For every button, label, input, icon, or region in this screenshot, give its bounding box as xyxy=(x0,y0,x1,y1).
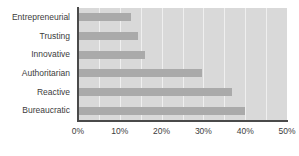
bar xyxy=(78,69,202,77)
bar xyxy=(78,88,232,96)
bar-chart: Entrepreneurial Trusting Innovative Auth… xyxy=(0,0,299,156)
category-label-reactive: Reactive xyxy=(0,88,70,97)
x-axis-line xyxy=(77,120,288,122)
category-label-trusting: Trusting xyxy=(0,32,70,41)
bar xyxy=(78,13,131,21)
x-tick-label-10: 10% xyxy=(100,126,140,137)
x-axis-tick-labels: 0% 10% 20% 30% 40% 50% xyxy=(0,126,299,142)
category-axis-labels: Entrepreneurial Trusting Innovative Auth… xyxy=(0,8,74,120)
bar xyxy=(78,32,138,40)
x-tick-label-40: 40% xyxy=(225,126,265,137)
x-tick-label-0: 0% xyxy=(58,126,98,137)
gridline xyxy=(203,8,204,120)
gridline xyxy=(245,8,246,120)
gridline xyxy=(99,8,100,120)
x-tick-label-20: 20% xyxy=(142,126,182,137)
x-tick-label-30: 30% xyxy=(183,126,223,137)
gridline xyxy=(141,8,142,120)
y-axis-line xyxy=(77,7,79,121)
category-label-authoritarian: Authoritarian xyxy=(0,69,70,78)
gridline xyxy=(183,8,184,120)
category-label-innovative: Innovative xyxy=(0,50,70,59)
category-label-entrepreneurial: Entrepreneurial xyxy=(0,13,70,22)
bar xyxy=(78,51,145,59)
gridline xyxy=(120,8,121,120)
gridline xyxy=(266,8,267,120)
category-label-bureaucratic: Bureaucratic xyxy=(0,106,70,115)
bar xyxy=(78,107,245,115)
x-tick-label-50: 50% xyxy=(267,126,299,137)
plot-area xyxy=(78,8,287,120)
gridline xyxy=(162,8,163,120)
gridline xyxy=(224,8,225,120)
